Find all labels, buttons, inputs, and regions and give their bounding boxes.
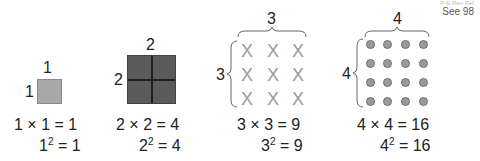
corner-reference: P-E Ren Ref See 98: [440, 0, 474, 17]
product-equation: 4 × 4 = 16: [357, 117, 429, 133]
x-mark: X: [240, 42, 254, 60]
product-equation: 3 × 3 = 9: [237, 117, 300, 133]
top-label: 1: [43, 60, 52, 76]
side-label: 1: [25, 84, 34, 100]
equation-rhs: = 1: [54, 116, 77, 133]
square-equation: 22 = 4: [139, 138, 181, 154]
equation-rhs: = 16: [397, 116, 429, 133]
base: 2: [139, 137, 148, 154]
top-label: 3: [267, 11, 276, 27]
base: 3: [261, 137, 270, 154]
square-equation: 12 = 1: [39, 138, 81, 154]
x-mark: X: [266, 90, 280, 108]
square-equation: 42 = 16: [380, 138, 431, 154]
top-label: 2: [146, 37, 155, 53]
unit-square: [37, 79, 62, 104]
top-label: 4: [393, 11, 402, 27]
exponent: 2: [270, 136, 276, 147]
side-label: 4: [342, 66, 351, 82]
equation-lhs: 3 × 3: [237, 116, 273, 133]
dot: [383, 59, 392, 68]
side-label: 3: [216, 67, 225, 83]
side-brace-icon: [352, 38, 364, 108]
square-equation: 32 = 9: [261, 138, 303, 154]
dot: [383, 97, 392, 106]
equation-rhs: = 4: [158, 137, 181, 154]
equation-rhs: = 1: [58, 137, 81, 154]
dot: [366, 59, 375, 68]
exponent: 2: [148, 136, 154, 147]
x-mark: X: [266, 66, 280, 84]
dot: [366, 97, 375, 106]
dot: [401, 97, 410, 106]
side-label: 2: [114, 72, 123, 88]
equation-rhs: = 16: [399, 137, 431, 154]
equation-rhs: = 4: [156, 116, 179, 133]
exponent: 2: [389, 136, 395, 147]
exponent: 2: [48, 136, 54, 147]
equation-lhs: 1 × 1: [14, 116, 50, 133]
dot: [419, 40, 428, 49]
x-mark: X: [240, 66, 254, 84]
dot: [401, 78, 410, 87]
dot: [383, 78, 392, 87]
top-brace-icon: [364, 26, 430, 38]
dot: [366, 40, 375, 49]
grid-line-horizontal: [128, 79, 175, 81]
x-mark: X: [291, 90, 305, 108]
x-mark: X: [240, 90, 254, 108]
dot: [419, 97, 428, 106]
see-reference: See 98: [442, 6, 474, 17]
x-mark: X: [291, 42, 305, 60]
equation-rhs: = 9: [277, 116, 300, 133]
x-mark: X: [291, 66, 305, 84]
equation-rhs: = 9: [280, 137, 303, 154]
base: 4: [380, 137, 389, 154]
base: 1: [39, 137, 48, 154]
dot: [401, 59, 410, 68]
top-brace-icon: [237, 26, 307, 38]
side-brace-icon: [226, 40, 238, 108]
product-equation: 2 × 2 = 4: [116, 117, 179, 133]
x-mark: X: [266, 42, 280, 60]
dot: [401, 40, 410, 49]
dot: [419, 59, 428, 68]
equation-lhs: 2 × 2: [116, 116, 152, 133]
product-equation: 1 × 1 = 1: [14, 117, 77, 133]
equation-lhs: 4 × 4: [357, 116, 393, 133]
dot: [419, 78, 428, 87]
dot: [366, 78, 375, 87]
dot: [383, 40, 392, 49]
grid-square-2x2: [127, 55, 176, 104]
